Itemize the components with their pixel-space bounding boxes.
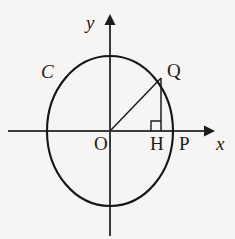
y-axis [105, 14, 116, 236]
circle-label-c: C [41, 62, 54, 81]
point-label-q: Q [167, 61, 181, 80]
geometry-figure: y x C Q O H P [0, 0, 235, 239]
point-label-p: P [179, 134, 190, 153]
x-axis-arrowhead [204, 126, 215, 137]
point-label-h: H [150, 134, 164, 153]
segment-OQ [110, 78, 161, 131]
y-axis-arrowhead [105, 14, 116, 25]
figure-canvas [0, 0, 235, 239]
right-angle-marker [151, 121, 161, 131]
x-axis-label: x [216, 134, 224, 153]
point-label-o: O [94, 134, 108, 153]
y-axis-label: y [86, 13, 94, 32]
